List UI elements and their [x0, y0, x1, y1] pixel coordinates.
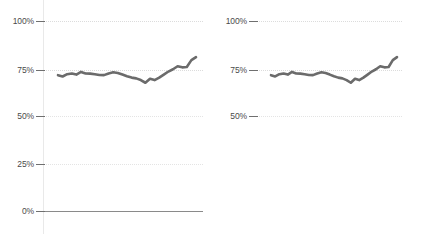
- plot-area-left: 100% 75% 50% 25% 0%: [0, 0, 213, 234]
- data-line-right: [213, 0, 427, 234]
- chart-panel-left: 100% 75% 50% 25% 0%: [0, 0, 213, 234]
- chart-panel-right: 100% 75% 50%: [213, 0, 427, 234]
- plot-area-right: 100% 75% 50%: [213, 0, 427, 234]
- data-line-left: [0, 0, 213, 234]
- dual-line-chart-figure: 100% 75% 50% 25% 0% 100% 75% 50%: [0, 0, 427, 234]
